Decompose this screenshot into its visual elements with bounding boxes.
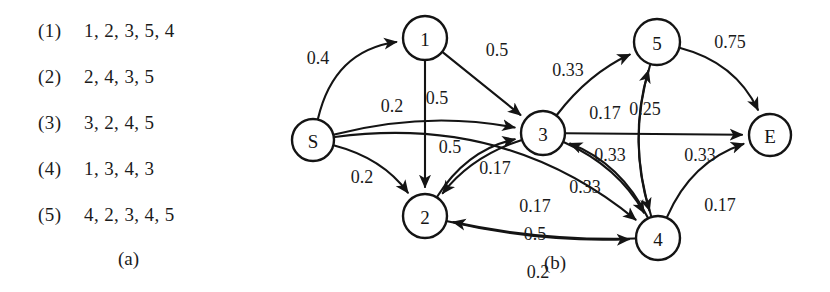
edge-weight-2-3: 0.5 <box>439 137 462 157</box>
sequence-items: 3, 2, 4, 5 <box>84 112 155 134</box>
sequence-items: 2, 4, 3, 5 <box>84 66 155 88</box>
edge-weight-4-2: 0.17 <box>519 196 551 216</box>
node-label-3: 3 <box>538 124 548 145</box>
edge-weight-4-5: 0.33 <box>684 145 716 165</box>
list-item: (4) 1, 3, 4, 3 <box>38 158 155 180</box>
graph-node-3[interactable]: 3 <box>521 111 565 155</box>
sequence-items: 1, 3, 4, 3 <box>84 158 155 180</box>
graph-edge-3-to-E <box>566 133 742 135</box>
markov-graph: S12345E 0.40.20.20.20.50.50.50.170.330.1… <box>280 0 830 292</box>
sequence-index: (1) <box>38 20 84 42</box>
sequence-index: (4) <box>38 158 84 180</box>
graph-node-1[interactable]: 1 <box>403 16 447 60</box>
list-item: (2) 2, 4, 3, 5 <box>38 66 155 88</box>
graph-edge-1-to-3 <box>443 52 520 114</box>
sequence-index: (3) <box>38 112 84 134</box>
graph-node-4[interactable]: 4 <box>636 216 680 260</box>
sequence-items: 1, 2, 3, 5, 4 <box>84 20 175 42</box>
caption-panel-b: (b) <box>544 252 566 274</box>
edge-weight-2-4: 0.5 <box>524 224 547 244</box>
node-label-4: 4 <box>653 229 663 250</box>
sequence-index: (5) <box>38 204 84 226</box>
graph-panel: S12345E 0.40.20.20.20.50.50.50.170.330.1… <box>280 0 830 292</box>
edge-weight-3-E: 0.17 <box>589 103 621 123</box>
edge-weight-5-4: 0.25 <box>629 99 661 119</box>
edge-weight-4-3: 0.33 <box>569 177 601 197</box>
edge-weight-S-1: 0.4 <box>307 48 330 68</box>
node-label-5: 5 <box>652 33 662 54</box>
sequence-items: 4, 2, 3, 4, 5 <box>84 204 175 226</box>
edge-weight-1-2: 0.5 <box>426 88 449 108</box>
node-label-1: 1 <box>420 29 430 50</box>
graph-node-S[interactable]: S <box>292 119 334 161</box>
node-label-S: S <box>308 131 319 152</box>
sequence-index: (2) <box>38 66 84 88</box>
node-label-E: E <box>764 126 776 147</box>
caption-panel-a: (a) <box>118 248 139 270</box>
edge-weight-3-2: 0.17 <box>479 158 511 178</box>
figure-root: (1) 1, 2, 3, 5, 4 (2) 2, 4, 3, 5 (3) 3, … <box>0 0 830 292</box>
list-item: (5) 4, 2, 3, 4, 5 <box>38 204 175 226</box>
graph-edge-5-to-E <box>680 48 758 110</box>
edge-weight-S-3: 0.2 <box>381 96 404 116</box>
sequence-list-panel: (1) 1, 2, 3, 5, 4 (2) 2, 4, 3, 5 (3) 3, … <box>0 0 280 292</box>
graph-node-2[interactable]: 2 <box>403 194 447 238</box>
graph-node-5[interactable]: 5 <box>634 19 680 65</box>
graph-edge-4-to-5 <box>639 71 652 216</box>
edge-weight-3-5: 0.33 <box>552 60 584 80</box>
edge-weight-S-2: 0.2 <box>351 167 374 187</box>
list-item: (3) 3, 2, 4, 5 <box>38 112 155 134</box>
edge-weight-5-E: 0.75 <box>714 32 746 52</box>
list-item: (1) 1, 2, 3, 5, 4 <box>38 20 175 42</box>
edge-weight-1-3: 0.5 <box>486 40 509 60</box>
edge-weight-4-E: 0.17 <box>704 195 736 215</box>
edge-weight-3-4: 0.33 <box>594 145 626 165</box>
graph-node-E[interactable]: E <box>749 114 791 156</box>
node-label-2: 2 <box>420 207 430 228</box>
